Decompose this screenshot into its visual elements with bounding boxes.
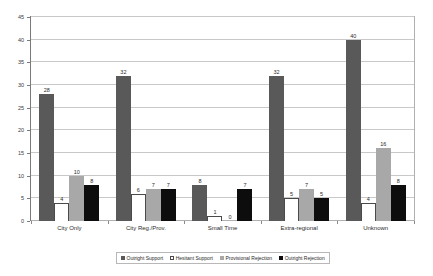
bar-value-label: 4 bbox=[60, 196, 63, 202]
legend-label: Hesitant Support bbox=[176, 255, 213, 261]
legend-swatch-icon bbox=[170, 256, 174, 260]
y-tick-mark bbox=[27, 153, 30, 154]
bar[interactable] bbox=[391, 185, 406, 221]
y-tick-mark bbox=[27, 62, 30, 63]
bar[interactable] bbox=[131, 194, 146, 221]
bar-slot: 16 bbox=[376, 17, 391, 221]
x-tick-label: City Only bbox=[31, 224, 108, 232]
x-tick-label: Extra-regional bbox=[261, 224, 338, 232]
legend-label: Provisional Rejection bbox=[225, 255, 272, 261]
legend-swatch-icon bbox=[279, 256, 283, 260]
bar[interactable] bbox=[69, 176, 84, 221]
chart-page: 051015202530354045 284108326778107325754… bbox=[0, 0, 433, 276]
bar-value-label: 32 bbox=[274, 69, 280, 75]
bar-group: 284108 bbox=[31, 17, 108, 221]
bar-slot: 4 bbox=[361, 17, 376, 221]
bar-slot: 7 bbox=[237, 17, 252, 221]
bar-value-label: 7 bbox=[152, 182, 155, 188]
bar[interactable] bbox=[161, 189, 176, 221]
bar[interactable] bbox=[299, 189, 314, 221]
bar-slot: 1 bbox=[207, 17, 222, 221]
x-tick-label: Small Time bbox=[184, 224, 261, 232]
legend-swatch-icon bbox=[121, 256, 125, 260]
x-tick-mark bbox=[184, 221, 185, 224]
bar[interactable] bbox=[207, 216, 222, 221]
y-tick-mark bbox=[27, 108, 30, 109]
legend-label: Outright Support bbox=[127, 255, 164, 261]
y-tick-label: 35 bbox=[18, 59, 24, 65]
x-tick-mark bbox=[414, 221, 415, 224]
y-axis-labels: 051015202530354045 bbox=[0, 0, 28, 276]
bar[interactable] bbox=[376, 148, 391, 221]
bar-slot: 6 bbox=[131, 17, 146, 221]
bar-slot: 4 bbox=[54, 17, 69, 221]
bar-value-label: 16 bbox=[380, 141, 386, 147]
bar-slot: 7 bbox=[299, 17, 314, 221]
bar-slot: 5 bbox=[284, 17, 299, 221]
chart-legend: Outright SupportHesitant SupportProvisio… bbox=[116, 252, 330, 264]
bar-groups: 28410832677810732575404168 bbox=[31, 17, 414, 221]
bar[interactable] bbox=[314, 198, 329, 221]
bar-value-label: 28 bbox=[44, 87, 50, 93]
bar-group: 32677 bbox=[108, 17, 185, 221]
bar-slot: 10 bbox=[69, 17, 84, 221]
y-tick-mark bbox=[27, 176, 30, 177]
x-tick-mark bbox=[337, 221, 338, 224]
y-tick-label: 10 bbox=[18, 173, 24, 179]
bar-value-label: 0 bbox=[228, 214, 231, 220]
bar-value-label: 1 bbox=[213, 209, 216, 215]
bar-slot: 40 bbox=[346, 17, 361, 221]
y-tick-mark bbox=[27, 85, 30, 86]
bar-slot: 8 bbox=[391, 17, 406, 221]
y-tick-label: 20 bbox=[18, 127, 24, 133]
bar-value-label: 10 bbox=[74, 169, 80, 175]
legend-item[interactable]: Provisional Rejection bbox=[220, 255, 272, 261]
y-tick-mark bbox=[27, 17, 30, 18]
bar-slot: 28 bbox=[39, 17, 54, 221]
y-tick-mark bbox=[27, 40, 30, 41]
bar-slot: 7 bbox=[146, 17, 161, 221]
x-tick-label: City Reg./Prov. bbox=[108, 224, 185, 232]
bar-value-label: 40 bbox=[350, 33, 356, 39]
y-tick-mark bbox=[27, 221, 30, 222]
bar-slot: 5 bbox=[314, 17, 329, 221]
bar-slot: 32 bbox=[116, 17, 131, 221]
bar[interactable] bbox=[237, 189, 252, 221]
bar-value-label: 7 bbox=[167, 182, 170, 188]
bar-slot: 0 bbox=[222, 17, 237, 221]
bar-value-label: 8 bbox=[90, 178, 93, 184]
bar-value-label: 8 bbox=[198, 178, 201, 184]
x-tick-mark bbox=[31, 221, 32, 224]
bar-value-label: 6 bbox=[137, 187, 140, 193]
bar[interactable] bbox=[116, 76, 131, 221]
bar-value-label: 5 bbox=[290, 191, 293, 197]
bar[interactable] bbox=[269, 76, 284, 221]
bar[interactable] bbox=[39, 94, 54, 221]
bar-slot: 8 bbox=[192, 17, 207, 221]
legend-label: Outright Rejection bbox=[285, 255, 325, 261]
bar-slot: 8 bbox=[84, 17, 99, 221]
bar[interactable] bbox=[146, 189, 161, 221]
bar-value-label: 5 bbox=[320, 191, 323, 197]
legend-item[interactable]: Hesitant Support bbox=[170, 255, 213, 261]
bar[interactable] bbox=[346, 40, 361, 221]
bar-value-label: 7 bbox=[305, 182, 308, 188]
y-tick-label: 30 bbox=[18, 82, 24, 88]
bar-slot: 7 bbox=[161, 17, 176, 221]
x-tick-label: Unknown bbox=[337, 224, 414, 232]
bar[interactable] bbox=[192, 185, 207, 221]
bar[interactable] bbox=[361, 203, 376, 221]
bar-group: 8107 bbox=[184, 17, 261, 221]
bar[interactable] bbox=[284, 198, 299, 221]
y-tick-label: 15 bbox=[18, 150, 24, 156]
legend-item[interactable]: Outright Support bbox=[121, 255, 163, 261]
y-tick-label: 45 bbox=[18, 14, 24, 20]
x-axis-labels: City OnlyCity Reg./Prov.Small TimeExtra-… bbox=[31, 224, 414, 238]
bar[interactable] bbox=[84, 185, 99, 221]
legend-item[interactable]: Outright Rejection bbox=[279, 255, 325, 261]
x-tick-mark bbox=[261, 221, 262, 224]
legend-swatch-icon bbox=[220, 256, 224, 260]
bar-group: 32575 bbox=[261, 17, 338, 221]
bar[interactable] bbox=[54, 203, 69, 221]
bar-value-label: 7 bbox=[243, 182, 246, 188]
